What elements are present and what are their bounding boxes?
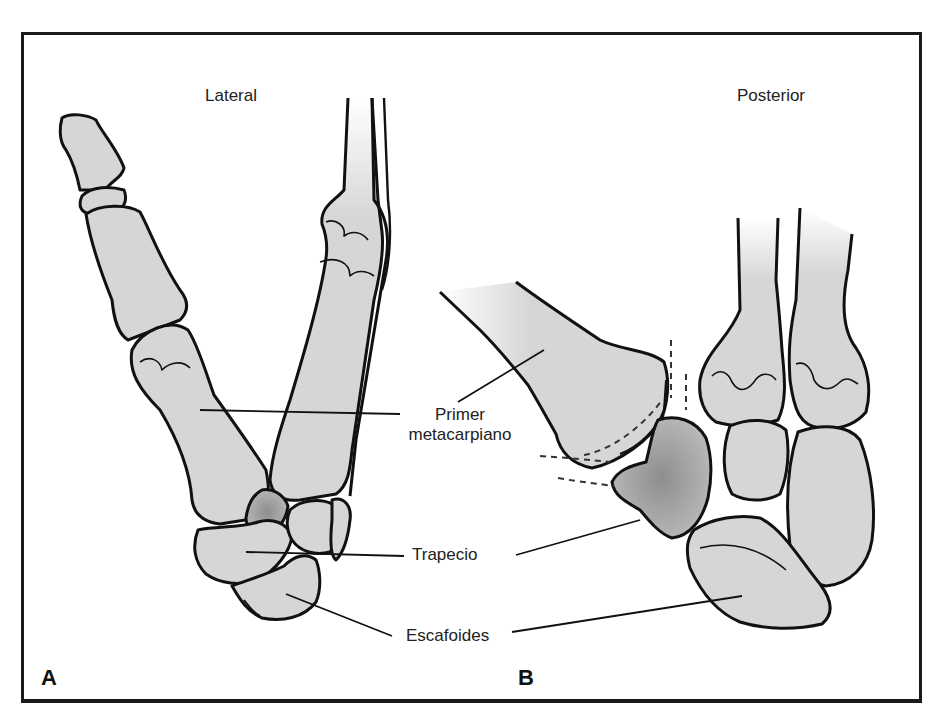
label-first-metacarpal-line2: metacarpiano <box>400 425 520 445</box>
label-trapezium: Trapecio <box>412 545 478 565</box>
panel-b-title: Posterior <box>737 86 805 106</box>
label-first-metacarpal-line1: Primer <box>400 405 520 425</box>
panel-b-letter: B <box>518 665 534 691</box>
anatomy-illustration <box>0 0 938 721</box>
panel-a-title: Lateral <box>205 86 257 106</box>
panel-a-letter: A <box>41 665 57 691</box>
panel-a-bones <box>60 98 390 619</box>
label-scaphoid: Escafoides <box>406 626 489 646</box>
label-first-metacarpal: Primer metacarpiano <box>400 405 520 445</box>
